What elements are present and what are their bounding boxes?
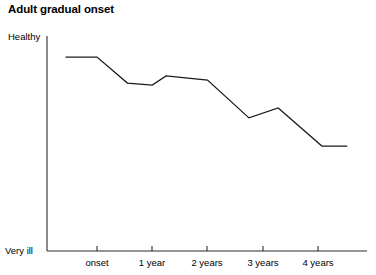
x-axis-ticks (97, 246, 318, 251)
data-series-line (66, 57, 348, 146)
plot-area (0, 0, 376, 275)
chart-container: Adult gradual onset Healthy Very ill ons… (0, 0, 376, 275)
